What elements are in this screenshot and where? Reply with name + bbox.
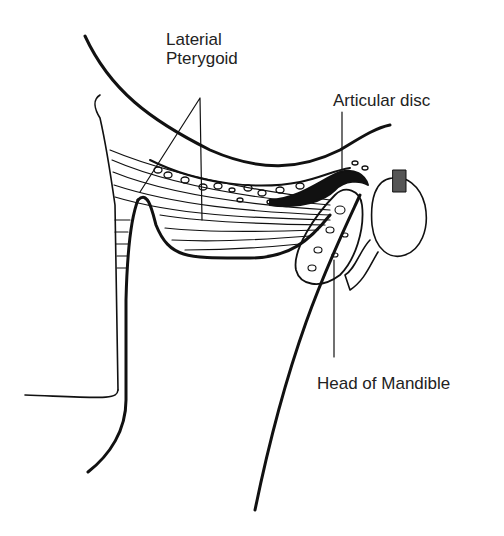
label-articular-disc: Articular disc <box>333 91 430 110</box>
diagram-drawing <box>0 0 504 536</box>
mandible-ramus <box>255 195 360 510</box>
label-lateral-pterygoid-line1: Laterial <box>166 30 222 49</box>
pterygoid-plate <box>95 95 118 390</box>
meatus-hatch <box>393 170 406 192</box>
label-head-of-mandible: Head of Mandible <box>317 374 450 393</box>
label-lateral-pterygoid-line2: Pterygoid <box>166 49 238 68</box>
